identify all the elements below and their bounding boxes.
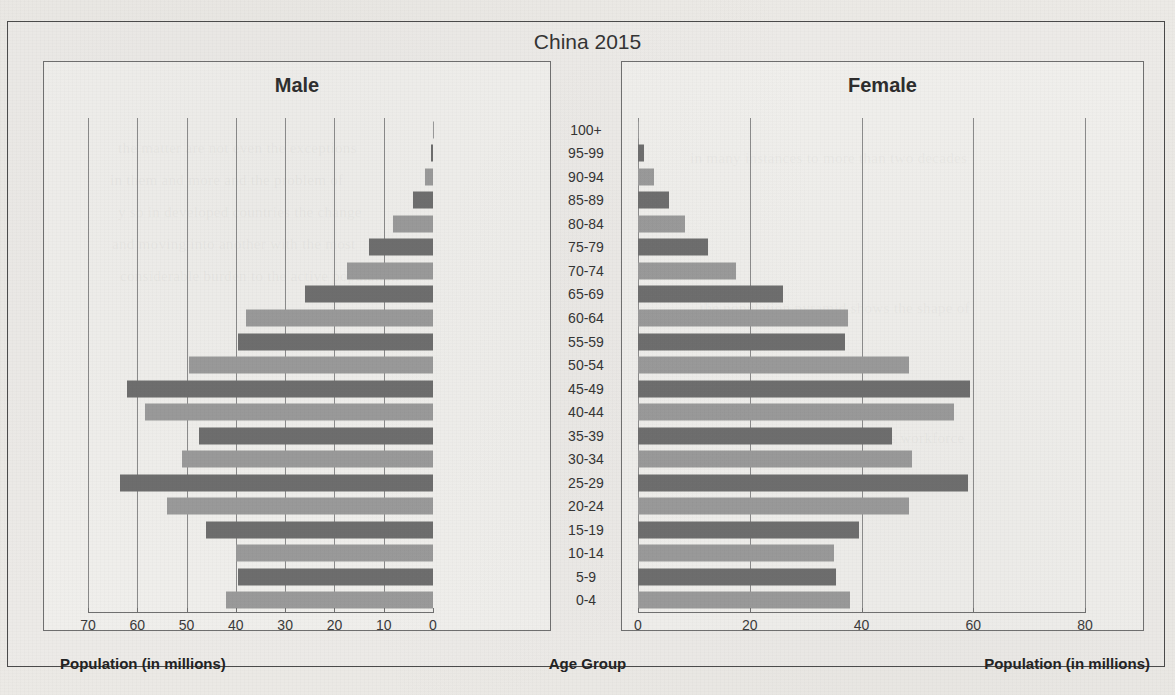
axis-tick-label-30: 30 bbox=[277, 617, 293, 633]
bar-male-25-29 bbox=[120, 474, 433, 491]
age-group-label-50-54: 50-54 bbox=[551, 353, 621, 377]
age-group-label-90-94: 90-94 bbox=[551, 165, 621, 189]
bar-female-40-44 bbox=[638, 404, 954, 421]
bar-male-35-39 bbox=[199, 427, 433, 444]
bar-male-15-19 bbox=[206, 521, 433, 538]
axis-tick-40 bbox=[236, 608, 237, 613]
bar-row-25-29 bbox=[88, 471, 433, 495]
age-group-label-25-29: 25-29 bbox=[551, 471, 621, 495]
bar-male-10-14 bbox=[236, 545, 433, 562]
bar-row-55-59 bbox=[638, 330, 1085, 354]
axis-tick-label-50: 50 bbox=[179, 617, 195, 633]
bar-row-5-9 bbox=[88, 565, 433, 589]
bar-female-65-69 bbox=[638, 286, 783, 303]
bar-male-5-9 bbox=[238, 568, 433, 585]
axis-tick-50 bbox=[187, 608, 188, 613]
bar-male-30-34 bbox=[182, 451, 433, 468]
male-panel-heading: Male bbox=[43, 74, 551, 97]
age-group-label-15-19: 15-19 bbox=[551, 518, 621, 542]
bar-female-70-74 bbox=[638, 262, 736, 279]
bar-row-65-69 bbox=[88, 283, 433, 307]
axis-tick-20 bbox=[750, 608, 751, 613]
bar-row-95-99 bbox=[88, 142, 433, 166]
age-group-label-100+: 100+ bbox=[551, 118, 621, 142]
bar-female-90-94 bbox=[638, 168, 654, 185]
male-plot-area bbox=[88, 118, 433, 612]
bar-row-35-39 bbox=[88, 424, 433, 448]
age-group-label-30-34: 30-34 bbox=[551, 447, 621, 471]
axis-tick-label-0: 0 bbox=[429, 617, 437, 633]
age-axis-title: Age Group bbox=[470, 655, 705, 672]
bar-row-10-14 bbox=[88, 542, 433, 566]
bar-row-70-74 bbox=[638, 259, 1085, 283]
bar-female-30-34 bbox=[638, 451, 912, 468]
axis-tick-label-20: 20 bbox=[742, 617, 758, 633]
bar-row-30-34 bbox=[638, 447, 1085, 471]
female-panel-heading: Female bbox=[621, 74, 1144, 97]
gridline-80 bbox=[1085, 118, 1086, 612]
axis-tick-0 bbox=[638, 608, 639, 613]
bar-row-45-49 bbox=[88, 377, 433, 401]
bar-female-60-64 bbox=[638, 310, 848, 327]
age-group-label-60-64: 60-64 bbox=[551, 306, 621, 330]
axis-tick-label-60: 60 bbox=[129, 617, 145, 633]
bar-male-80-84 bbox=[393, 215, 433, 232]
bar-row-60-64 bbox=[638, 306, 1085, 330]
age-group-label-35-39: 35-39 bbox=[551, 424, 621, 448]
bar-female-35-39 bbox=[638, 427, 892, 444]
bar-female-100+ bbox=[638, 121, 639, 138]
female-plot-area bbox=[638, 118, 1085, 612]
bar-male-40-44 bbox=[145, 404, 433, 421]
bar-male-0-4 bbox=[226, 592, 433, 609]
bar-row-5-9 bbox=[638, 565, 1085, 589]
bar-row-85-89 bbox=[638, 189, 1085, 213]
bar-female-55-59 bbox=[638, 333, 845, 350]
female-bar-rows bbox=[638, 118, 1085, 612]
age-group-label-55-59: 55-59 bbox=[551, 330, 621, 354]
axis-tick-0 bbox=[433, 608, 434, 613]
chart-title: China 2015 bbox=[0, 30, 1175, 54]
bar-row-45-49 bbox=[638, 377, 1085, 401]
bar-female-15-19 bbox=[638, 521, 859, 538]
axis-tick-label-10: 10 bbox=[376, 617, 392, 633]
age-group-label-65-69: 65-69 bbox=[551, 283, 621, 307]
bar-female-5-9 bbox=[638, 568, 836, 585]
bar-row-100+ bbox=[638, 118, 1085, 142]
bar-row-35-39 bbox=[638, 424, 1085, 448]
bar-female-10-14 bbox=[638, 545, 834, 562]
axis-tick-label-20: 20 bbox=[327, 617, 343, 633]
bar-female-20-24 bbox=[638, 498, 909, 515]
axis-tick-label-0: 0 bbox=[634, 617, 642, 633]
bar-row-60-64 bbox=[88, 306, 433, 330]
male-axis-title: Population (in millions) bbox=[60, 655, 480, 672]
male-axis-line bbox=[88, 612, 433, 613]
axis-tick-80 bbox=[1085, 608, 1086, 613]
female-axis-tick-labels: 020406080 bbox=[638, 617, 1085, 639]
bar-row-70-74 bbox=[88, 259, 433, 283]
bar-row-15-19 bbox=[638, 518, 1085, 542]
age-group-label-45-49: 45-49 bbox=[551, 377, 621, 401]
bar-female-50-54 bbox=[638, 357, 909, 374]
axis-tick-70 bbox=[88, 608, 89, 613]
age-group-axis: 100+95-9990-9485-8980-8475-7970-7465-696… bbox=[551, 118, 621, 612]
bar-row-90-94 bbox=[638, 165, 1085, 189]
bar-male-60-64 bbox=[246, 310, 433, 327]
male-axis-tick-labels: 706050403020100 bbox=[88, 617, 433, 639]
bar-row-10-14 bbox=[638, 542, 1085, 566]
bar-row-40-44 bbox=[88, 400, 433, 424]
bar-row-40-44 bbox=[638, 400, 1085, 424]
bar-row-55-59 bbox=[88, 330, 433, 354]
bar-row-95-99 bbox=[638, 142, 1085, 166]
axis-tick-label-60: 60 bbox=[965, 617, 981, 633]
age-group-label-40-44: 40-44 bbox=[551, 400, 621, 424]
bar-male-50-54 bbox=[189, 357, 433, 374]
bar-female-25-29 bbox=[638, 474, 968, 491]
age-group-label-5-9: 5-9 bbox=[551, 565, 621, 589]
axis-tick-20 bbox=[334, 608, 335, 613]
bar-male-70-74 bbox=[347, 262, 433, 279]
bar-row-15-19 bbox=[88, 518, 433, 542]
axis-tick-label-80: 80 bbox=[1077, 617, 1093, 633]
bar-row-80-84 bbox=[638, 212, 1085, 236]
bar-row-50-54 bbox=[638, 353, 1085, 377]
bar-female-45-49 bbox=[638, 380, 970, 397]
